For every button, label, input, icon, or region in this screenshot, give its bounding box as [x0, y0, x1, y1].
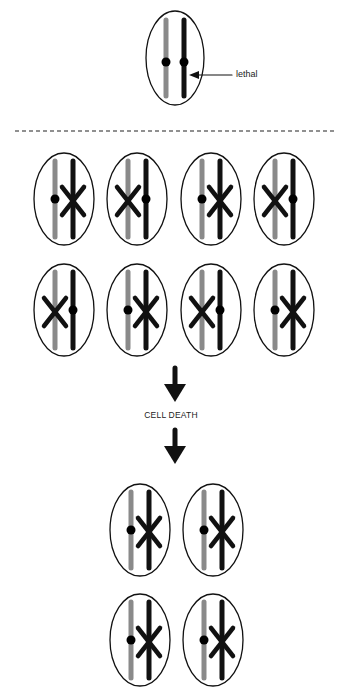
chromosome-diagram: [0, 0, 342, 694]
cell: [254, 264, 314, 356]
centromere: [289, 195, 298, 204]
cell-outline: [181, 264, 241, 356]
cell: [34, 264, 94, 356]
centromere: [180, 58, 189, 67]
centromere: [216, 306, 225, 315]
cell-outline: [110, 594, 170, 686]
centromere: [271, 306, 280, 315]
cell: [181, 153, 241, 245]
centromere: [124, 306, 133, 315]
arrow-head: [164, 446, 186, 464]
centromere: [142, 195, 151, 204]
cell-death-label: CELL DEATH: [0, 410, 342, 420]
cell: [183, 484, 243, 576]
cell-outline: [254, 264, 314, 356]
cell: [181, 264, 241, 356]
cell: [183, 594, 243, 686]
centromere: [198, 195, 207, 204]
pointer-arrowhead-icon: [189, 71, 199, 79]
cell-outline: [34, 264, 94, 356]
arrow-head: [164, 384, 186, 402]
cell: [34, 153, 94, 245]
centromere: [200, 526, 209, 535]
cell-outline: [254, 153, 314, 245]
centromere: [127, 526, 136, 535]
cell-outline: [183, 484, 243, 576]
cell-outline: [34, 153, 94, 245]
cell: [110, 484, 170, 576]
cell-outline: [183, 594, 243, 686]
cell-outline: [107, 153, 167, 245]
cell-outline: [146, 11, 204, 105]
down-arrow-icon: [164, 430, 186, 464]
cell: [107, 264, 167, 356]
cell: [110, 594, 170, 686]
lethal-label: lethal: [236, 69, 258, 79]
down-arrow-icon: [164, 368, 186, 402]
cell-outline: [181, 153, 241, 245]
cell-outline: [110, 484, 170, 576]
cell: [107, 153, 167, 245]
centromere: [200, 636, 209, 645]
cell: [254, 153, 314, 245]
parental-cell: [146, 11, 232, 105]
centromere: [51, 195, 60, 204]
centromere: [162, 58, 171, 67]
centromere: [127, 636, 136, 645]
centromere: [69, 306, 78, 315]
cell-outline: [107, 264, 167, 356]
